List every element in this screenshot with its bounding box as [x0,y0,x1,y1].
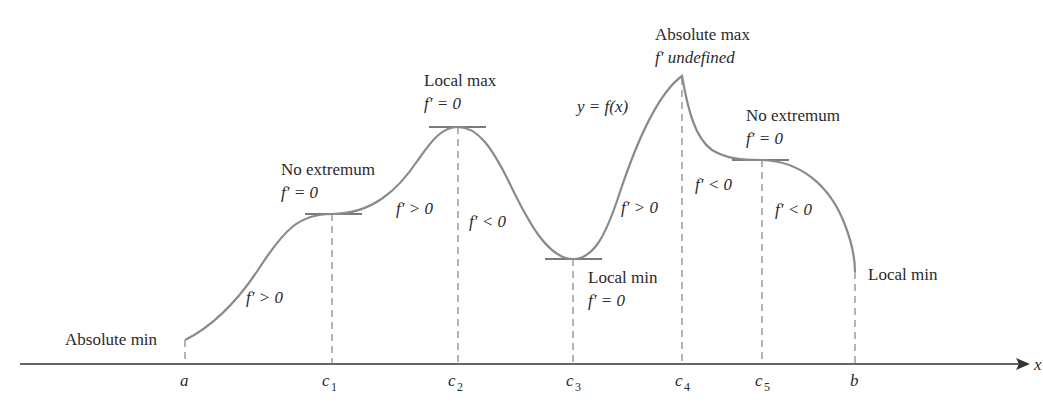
label-interval-c3-c4: f′ > 0 [621,198,658,217]
tick-c5: c 5 [755,371,770,394]
svg-text:c: c [322,371,330,390]
tick-a: a [180,371,189,390]
svg-text:c: c [566,371,574,390]
tick-c4: c 4 [675,371,690,394]
svg-text:1: 1 [331,380,337,394]
label-c4-derivative: f′ undefined [655,48,735,67]
label-c3-title: Local min [588,268,658,287]
label-interval-c1-c2: f′ > 0 [396,199,433,218]
label-c2-title: Local max [424,71,497,90]
svg-text:c: c [755,371,763,390]
svg-text:c: c [675,371,683,390]
label-c5-title: No extremum [746,106,840,125]
svg-text:c: c [448,371,456,390]
label-absolute-min: Absolute min [65,330,158,349]
label-c3-derivative: f′ = 0 [588,291,625,310]
tick-c2: c 2 [448,371,463,394]
label-c1-derivative: f′ = 0 [281,183,318,202]
label-interval-c4-c5: f′ < 0 [695,175,732,194]
x-axis-label: x [1033,355,1042,374]
label-b-title: Local min [868,265,938,284]
label-c4-title: Absolute max [655,25,750,44]
tick-c3: c 3 [566,371,581,394]
svg-text:2: 2 [457,380,463,394]
label-c5-derivative: f′ = 0 [746,129,783,148]
label-interval-c2-c3: f′ < 0 [469,212,506,231]
label-curve: y = f(x) [575,97,628,116]
label-interval-a-c1: f′ > 0 [246,288,283,307]
svg-text:3: 3 [575,380,581,394]
svg-text:4: 4 [684,380,690,394]
label-c1-title: No extremum [281,160,375,179]
tick-b: b [850,371,859,390]
tick-c1: c 1 [322,371,337,394]
label-interval-c5-b: f′ < 0 [775,200,812,219]
extrema-diagram: x Absolute min No extremum f′ = 0 Local … [0,0,1043,413]
diagram-canvas: x Absolute min No extremum f′ = 0 Local … [0,0,1043,413]
label-c2-derivative: f′ = 0 [424,94,461,113]
svg-text:5: 5 [764,380,770,394]
